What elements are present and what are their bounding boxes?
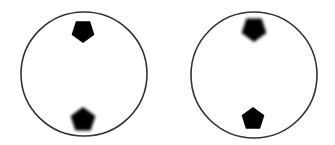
left-panel [21, 12, 147, 136]
right-top-pentagon-icon [242, 19, 267, 43]
right-panel [191, 12, 317, 138]
left-bottom-pentagon-icon [71, 107, 96, 131]
diagram-stage [0, 0, 335, 145]
left-top-pentagon-icon [72, 21, 95, 43]
diagram-canvas [0, 0, 335, 145]
right-bottom-pentagon-icon [242, 107, 265, 129]
